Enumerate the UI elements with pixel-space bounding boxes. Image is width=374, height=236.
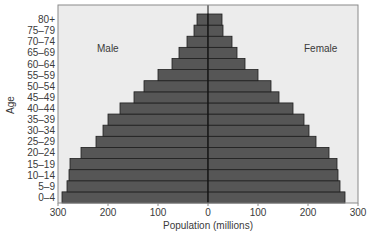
female-bar-40–44 [208,103,293,114]
male-bar-50–54 [144,81,208,92]
male-bar-0–4 [62,192,208,203]
y-axis-tick-labels: 0–45–910–1415–1920–2425–2930–3435–3940–4… [27,14,55,203]
age-tick-label: 70–74 [27,36,55,47]
y-axis-title: Age [5,96,16,114]
female-bar-35–39 [208,114,304,125]
female-bar-25–29 [208,136,316,147]
age-tick-label: 5–9 [38,181,55,192]
female-bar-50–54 [208,81,271,92]
male-label: Male [97,43,119,54]
age-tick-label: 10–14 [27,170,55,181]
x-axis-ticks: 3002001000100200300 [50,203,367,218]
female-label: Female [304,43,338,54]
age-tick-label: 45–49 [27,92,55,103]
age-tick-label: 20–24 [27,147,55,158]
age-tick-label: 0–4 [38,192,55,203]
male-bar-15–19 [70,159,208,170]
male-bar-10–14 [69,170,208,181]
population-pyramid-chart: 0–45–910–1415–1920–2425–2930–3435–3940–4… [0,0,374,236]
age-tick-label: 25–29 [27,136,55,147]
male-bar-40–44 [120,103,208,114]
female-bar-80+ [208,14,222,25]
age-tick-label: 40–44 [27,103,55,114]
female-bar-0–4 [208,192,345,203]
male-bar-55–59 [158,70,208,81]
male-bar-45–49 [134,92,208,103]
male-bar-25–29 [96,136,208,147]
male-bar-80+ [197,14,208,25]
x-tick-label: 100 [150,207,167,218]
female-bar-45–49 [208,92,279,103]
x-tick-label: 300 [350,207,367,218]
age-tick-label: 30–34 [27,125,55,136]
male-bar-20–24 [81,147,208,158]
female-bar-20–24 [208,147,329,158]
female-bar-75–79 [208,25,223,36]
male-bar-65–69 [179,47,208,58]
male-bar-75–79 [194,25,208,36]
female-bar-5–9 [208,181,340,192]
female-bar-30–34 [208,125,309,136]
male-bar-30–34 [103,125,208,136]
x-tick-label: 200 [100,207,117,218]
female-bar-10–14 [208,170,338,181]
age-tick-label: 15–19 [27,159,55,170]
age-tick-label: 35–39 [27,114,55,125]
x-tick-label: 300 [50,207,67,218]
male-bar-35–39 [108,114,208,125]
x-tick-label: 200 [300,207,317,218]
age-tick-label: 75–79 [27,25,55,36]
age-tick-label: 60–64 [27,59,55,70]
chart-svg: 0–45–910–1415–1920–2425–2930–3435–3940–4… [0,0,374,236]
x-axis-title: Population (millions) [163,220,253,231]
female-bar-55–59 [208,70,258,81]
female-bar-65–69 [208,47,237,58]
age-tick-label: 50–54 [27,81,55,92]
x-tick-label: 100 [250,207,267,218]
female-bar-70–74 [208,36,232,47]
age-tick-label: 55–59 [27,70,55,81]
male-bar-5–9 [67,181,208,192]
age-tick-label: 80+ [38,14,55,25]
male-bar-70–74 [187,36,208,47]
male-bar-60–64 [172,58,208,69]
age-tick-label: 65–69 [27,47,55,58]
female-bar-15–19 [208,159,337,170]
female-bar-60–64 [208,58,245,69]
x-tick-label: 0 [205,207,211,218]
